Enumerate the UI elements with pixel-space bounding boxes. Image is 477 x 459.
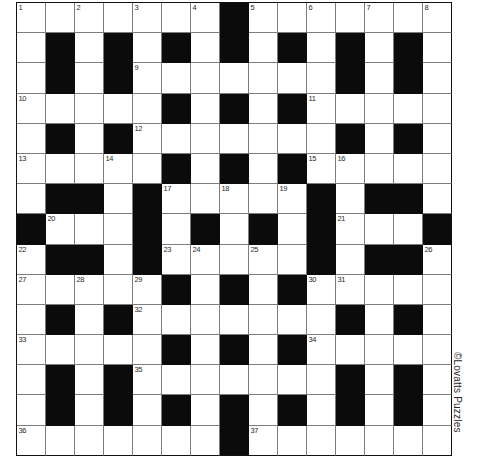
grid-open-cell[interactable] [394, 94, 423, 124]
grid-open-cell[interactable] [46, 426, 75, 456]
grid-open-cell[interactable] [220, 124, 249, 154]
grid-open-cell[interactable] [162, 214, 191, 244]
grid-open-cell[interactable] [336, 426, 365, 456]
grid-open-cell[interactable] [191, 275, 220, 305]
grid-open-cell[interactable] [394, 214, 423, 244]
grid-open-cell[interactable]: 11 [307, 94, 336, 124]
grid-open-cell[interactable]: 14 [104, 154, 133, 184]
grid-open-cell[interactable] [162, 426, 191, 456]
grid-open-cell[interactable] [249, 365, 278, 395]
grid-open-cell[interactable] [75, 154, 104, 184]
grid-open-cell[interactable] [249, 94, 278, 124]
grid-open-cell[interactable]: 18 [220, 184, 249, 214]
grid-open-cell[interactable]: 5 [249, 3, 278, 33]
grid-open-cell[interactable] [394, 3, 423, 33]
grid-open-cell[interactable] [365, 33, 394, 63]
grid-open-cell[interactable] [75, 395, 104, 425]
grid-open-cell[interactable] [307, 33, 336, 63]
grid-open-cell[interactable] [191, 335, 220, 365]
grid-open-cell[interactable] [46, 335, 75, 365]
grid-open-cell[interactable] [220, 305, 249, 335]
grid-open-cell[interactable] [423, 275, 452, 305]
grid-open-cell[interactable] [17, 395, 46, 425]
grid-open-cell[interactable] [394, 426, 423, 456]
grid-open-cell[interactable] [365, 94, 394, 124]
grid-open-cell[interactable] [278, 245, 307, 275]
grid-open-cell[interactable] [75, 94, 104, 124]
grid-open-cell[interactable]: 1 [17, 3, 46, 33]
grid-open-cell[interactable] [191, 395, 220, 425]
grid-open-cell[interactable] [75, 335, 104, 365]
grid-open-cell[interactable] [423, 395, 452, 425]
grid-open-cell[interactable] [423, 154, 452, 184]
grid-open-cell[interactable]: 22 [17, 245, 46, 275]
grid-open-cell[interactable] [249, 184, 278, 214]
grid-open-cell[interactable] [278, 3, 307, 33]
grid-open-cell[interactable]: 10 [17, 94, 46, 124]
grid-open-cell[interactable] [336, 3, 365, 33]
grid-open-cell[interactable]: 3 [133, 3, 162, 33]
grid-open-cell[interactable] [249, 63, 278, 93]
grid-open-cell[interactable] [162, 3, 191, 33]
grid-open-cell[interactable] [133, 154, 162, 184]
grid-open-cell[interactable]: 24 [191, 245, 220, 275]
grid-open-cell[interactable] [394, 275, 423, 305]
grid-open-cell[interactable]: 21 [336, 214, 365, 244]
grid-open-cell[interactable] [278, 305, 307, 335]
grid-open-cell[interactable] [162, 124, 191, 154]
grid-open-cell[interactable] [133, 94, 162, 124]
grid-open-cell[interactable] [133, 426, 162, 456]
grid-open-cell[interactable] [191, 184, 220, 214]
grid-open-cell[interactable]: 19 [278, 184, 307, 214]
grid-open-cell[interactable] [307, 365, 336, 395]
grid-open-cell[interactable] [46, 94, 75, 124]
grid-open-cell[interactable] [220, 214, 249, 244]
grid-open-cell[interactable] [104, 245, 133, 275]
grid-open-cell[interactable] [365, 426, 394, 456]
grid-open-cell[interactable] [104, 184, 133, 214]
grid-open-cell[interactable] [75, 63, 104, 93]
grid-open-cell[interactable]: 15 [307, 154, 336, 184]
grid-open-cell[interactable]: 31 [336, 275, 365, 305]
grid-open-cell[interactable] [46, 3, 75, 33]
grid-open-cell[interactable] [423, 335, 452, 365]
grid-open-cell[interactable]: 13 [17, 154, 46, 184]
grid-open-cell[interactable] [191, 94, 220, 124]
grid-open-cell[interactable] [336, 94, 365, 124]
grid-open-cell[interactable] [365, 365, 394, 395]
grid-open-cell[interactable] [307, 63, 336, 93]
grid-open-cell[interactable] [46, 154, 75, 184]
grid-open-cell[interactable] [423, 426, 452, 456]
grid-open-cell[interactable]: 35 [133, 365, 162, 395]
grid-open-cell[interactable]: 34 [307, 335, 336, 365]
grid-open-cell[interactable] [365, 214, 394, 244]
grid-open-cell[interactable] [278, 63, 307, 93]
grid-open-cell[interactable]: 36 [17, 426, 46, 456]
grid-open-cell[interactable] [249, 335, 278, 365]
grid-open-cell[interactable] [75, 426, 104, 456]
grid-open-cell[interactable] [17, 124, 46, 154]
grid-open-cell[interactable] [17, 33, 46, 63]
grid-open-cell[interactable] [365, 63, 394, 93]
grid-open-cell[interactable] [75, 214, 104, 244]
grid-open-cell[interactable] [133, 335, 162, 365]
grid-open-cell[interactable] [365, 335, 394, 365]
grid-open-cell[interactable] [249, 33, 278, 63]
grid-open-cell[interactable]: 25 [249, 245, 278, 275]
grid-open-cell[interactable] [191, 154, 220, 184]
crossword-grid[interactable]: 1234567891011121314151617181920212223242… [16, 2, 452, 456]
grid-open-cell[interactable] [365, 124, 394, 154]
grid-open-cell[interactable] [133, 33, 162, 63]
grid-open-cell[interactable] [191, 365, 220, 395]
grid-open-cell[interactable]: 26 [423, 245, 452, 275]
grid-open-cell[interactable] [394, 335, 423, 365]
grid-open-cell[interactable] [307, 426, 336, 456]
grid-open-cell[interactable]: 29 [133, 275, 162, 305]
grid-open-cell[interactable] [220, 245, 249, 275]
grid-open-cell[interactable] [365, 275, 394, 305]
grid-open-cell[interactable]: 4 [191, 3, 220, 33]
grid-open-cell[interactable] [249, 154, 278, 184]
grid-open-cell[interactable] [423, 305, 452, 335]
grid-open-cell[interactable] [162, 63, 191, 93]
grid-open-cell[interactable] [104, 214, 133, 244]
